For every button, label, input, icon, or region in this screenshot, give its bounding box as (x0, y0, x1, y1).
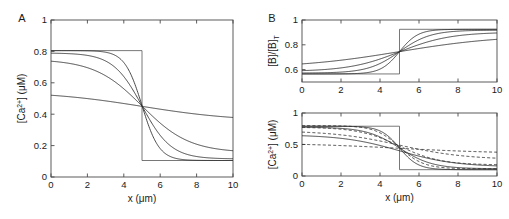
x-tick-label: 2 (338, 178, 343, 189)
x-tick-label: 6 (158, 179, 163, 190)
y-axis-title: [Ca2+] (μM) (267, 120, 278, 170)
x-tick-label: 10 (228, 179, 239, 190)
y-axis-title: [Ca2+] (μM) (16, 74, 27, 124)
y-tick-label: 0.4 (34, 109, 47, 120)
x-tick-label: 4 (377, 178, 382, 189)
y-tick-label: 0.6 (34, 77, 47, 88)
figure-canvas: 024681000.20.40.60.81Ax (μm)[Ca2+] (μM)0… (0, 0, 509, 219)
x-tick-label: 6 (416, 178, 421, 189)
panel-letter-label: B (268, 12, 275, 24)
y-tick-label: 0 (293, 170, 298, 181)
y-tick-label: 1 (293, 107, 298, 118)
y-tick-label: 1 (293, 14, 298, 25)
panel-letter-label: A (18, 12, 26, 24)
x-tick-label: 10 (492, 178, 503, 189)
x-tick-label: 4 (377, 84, 382, 95)
y-tick-label: 0.2 (34, 140, 47, 151)
x-tick-label: 4 (121, 179, 126, 190)
y-tick-label: 0.5 (285, 139, 298, 150)
x-tick-label: 0 (48, 179, 53, 190)
x-axis-title: x (μm) (385, 192, 414, 203)
x-tick-label: 8 (455, 84, 460, 95)
x-tick-label: 2 (338, 84, 343, 95)
x-tick-label: 10 (492, 84, 503, 95)
y-tick-label: 1 (42, 14, 47, 25)
x-tick-label: 0 (299, 84, 304, 95)
y-tick-label: 0.6 (285, 64, 298, 75)
x-tick-label: 8 (194, 179, 199, 190)
x-tick-label: 2 (85, 179, 90, 190)
x-tick-label: 6 (416, 84, 421, 95)
figure-background (0, 0, 509, 219)
x-axis-title: x (μm) (128, 193, 157, 204)
x-tick-label: 0 (299, 178, 304, 189)
y-tick-label: 0.8 (34, 46, 47, 57)
y-tick-label: 0 (42, 171, 47, 182)
y-tick-label: 0.8 (285, 39, 298, 50)
x-tick-label: 8 (455, 178, 460, 189)
